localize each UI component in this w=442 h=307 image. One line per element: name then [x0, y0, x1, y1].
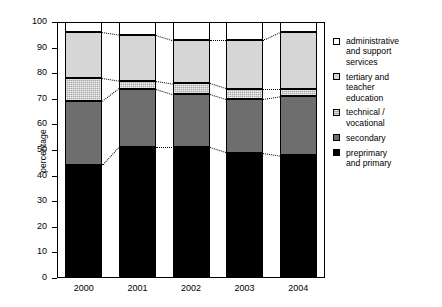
x-tick-label: 2004: [288, 283, 308, 293]
y-tick: 100: [0, 22, 57, 23]
legend-item-secondary: secondary: [333, 133, 441, 143]
y-tick-label: 30: [37, 195, 47, 206]
legend-swatch-technical-icon: [333, 109, 340, 116]
y-tick: 20: [0, 227, 57, 228]
legend-item-tertiary: tertiary and teacher education: [333, 72, 441, 103]
chart-legend: administrative and support servicesterti…: [333, 36, 441, 173]
bar-segment-technical: [65, 78, 102, 101]
y-tick-label: 60: [37, 118, 47, 129]
bar-segment-secondary: [119, 89, 156, 148]
y-tick: 10: [0, 252, 57, 253]
legend-label: administrative and support services: [346, 36, 441, 67]
bar-segment-preprimary: [65, 165, 102, 278]
legend-item-administrative: administrative and support services: [333, 36, 441, 67]
y-tick-mark: [52, 73, 57, 74]
legend-swatch-secondary-icon: [333, 134, 340, 141]
y-tick-mark: [52, 150, 57, 151]
legend-item-technical: technical / vocational: [333, 107, 441, 128]
y-tick-mark: [52, 252, 57, 253]
bar-2000: [65, 22, 102, 278]
bar-2004: [280, 22, 317, 278]
y-tick: 0: [0, 278, 57, 279]
legend-swatch-administrative-icon: [333, 38, 340, 45]
y-tick: 50: [0, 150, 57, 151]
y-tick: 80: [0, 73, 57, 74]
bar-segment-secondary: [226, 99, 263, 153]
y-tick: 70: [0, 99, 57, 100]
bar-segment-administrative: [226, 22, 263, 40]
bar-segment-technical: [173, 83, 210, 93]
bar-segment-administrative: [173, 22, 210, 40]
bar-segment-tertiary: [173, 40, 210, 84]
y-tick-mark: [52, 201, 57, 202]
bar-segment-preprimary: [226, 153, 263, 278]
x-tick-label: 2001: [127, 283, 147, 293]
x-tick-label: 2003: [235, 283, 255, 293]
y-tick-label: 10: [37, 246, 47, 257]
legend-label: preprimary and primary: [346, 148, 441, 169]
bar-segment-administrative: [65, 22, 102, 32]
bar-segment-secondary: [280, 96, 317, 155]
y-tick-label: 70: [37, 93, 47, 104]
bar-segment-technical: [119, 81, 156, 89]
bar-segment-administrative: [280, 22, 317, 32]
bar-segment-tertiary: [226, 40, 263, 89]
bar-segment-technical: [226, 89, 263, 99]
y-tick: 40: [0, 176, 57, 177]
bar-2003: [226, 22, 263, 278]
legend-swatch-preprimary-icon: [333, 149, 340, 156]
bar-segment-secondary: [173, 94, 210, 148]
y-tick-mark: [52, 176, 57, 177]
bar-segment-tertiary: [119, 35, 156, 81]
y-tick-mark: [52, 48, 57, 49]
legend-label: secondary: [346, 133, 441, 143]
bar-segment-tertiary: [65, 32, 102, 78]
y-tick-label: 40: [37, 170, 47, 181]
y-tick-label: 50: [37, 144, 47, 155]
y-tick-mark: [52, 124, 57, 125]
y-tick-label: 80: [37, 67, 47, 78]
y-tick-label: 90: [37, 42, 47, 53]
stacked-bar-chart: percentage 0102030405060708090100 200020…: [0, 0, 442, 307]
legend-item-preprimary: preprimary and primary: [333, 148, 441, 169]
y-tick-label: 20: [37, 221, 47, 232]
bar-segment-secondary: [65, 101, 102, 165]
y-tick-label: 0: [42, 272, 47, 283]
bar-segment-preprimary: [280, 155, 317, 278]
bar-segment-tertiary: [280, 32, 317, 88]
y-tick-mark: [52, 22, 57, 23]
x-tick-label: 2000: [74, 283, 94, 293]
bar-segment-technical: [280, 89, 317, 97]
y-tick-label: 100: [32, 16, 47, 27]
y-tick-mark: [52, 99, 57, 100]
legend-swatch-tertiary-icon: [333, 73, 340, 80]
bar-segment-preprimary: [173, 147, 210, 278]
y-tick: 30: [0, 201, 57, 202]
y-tick-mark: [52, 227, 57, 228]
x-tick-label: 2002: [181, 283, 201, 293]
y-tick-mark: [52, 278, 57, 279]
y-tick: 60: [0, 124, 57, 125]
y-tick: 90: [0, 48, 57, 49]
bar-2001: [119, 22, 156, 278]
legend-label: technical / vocational: [346, 107, 441, 128]
bar-2002: [173, 22, 210, 278]
bar-segment-administrative: [119, 22, 156, 35]
legend-label: tertiary and teacher education: [346, 72, 441, 103]
bar-segment-preprimary: [119, 147, 156, 278]
